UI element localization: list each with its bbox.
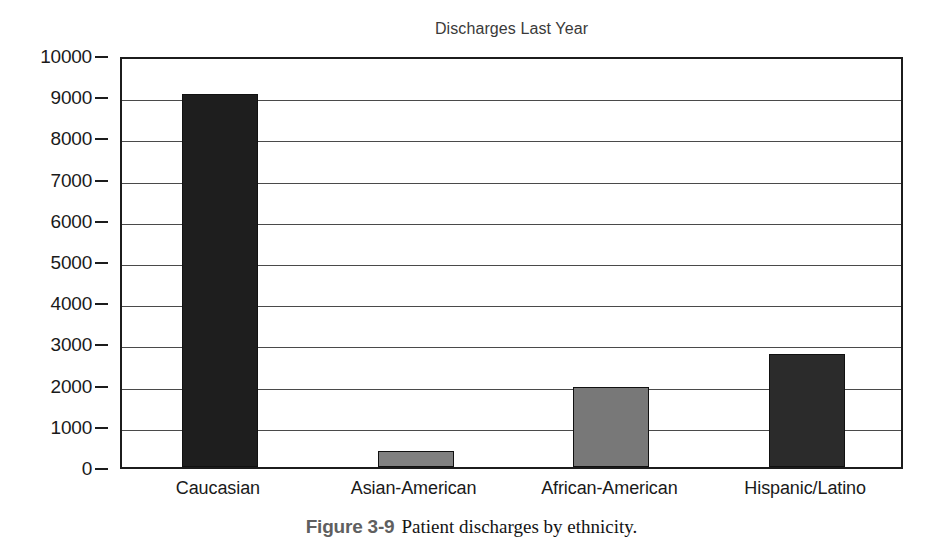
y-tick-mark — [95, 303, 108, 305]
y-tick-mark — [95, 344, 108, 346]
y-tick-mark — [95, 386, 108, 388]
y-tick-label: 2000 — [51, 376, 92, 398]
bar — [378, 451, 454, 467]
y-tick-mark — [95, 262, 108, 264]
y-tick-mark — [95, 180, 108, 182]
bar — [182, 94, 258, 467]
x-tick-label: Hispanic/Latino — [744, 478, 866, 499]
y-tick-mark — [95, 468, 108, 470]
x-tick-label: Caucasian — [176, 478, 260, 499]
y-tick-mark — [95, 221, 108, 223]
y-tick-mark — [95, 427, 108, 429]
y-tick-label: 10000 — [40, 46, 92, 68]
caption-number: Figure 3-9 — [306, 516, 395, 537]
bar — [573, 387, 649, 467]
y-tick-label: 6000 — [51, 211, 92, 233]
y-tick-label: 3000 — [51, 334, 92, 356]
y-tick-mark — [95, 138, 108, 140]
y-tick-label: 9000 — [51, 87, 92, 109]
y-tick-label: 8000 — [51, 128, 92, 150]
x-axis: CaucasianAsian-AmericanAfrican-AmericanH… — [120, 478, 903, 508]
y-tick-label: 4000 — [51, 293, 92, 315]
y-axis: 0100020003000400050006000700080009000100… — [0, 57, 108, 469]
chart-title: Discharges Last Year — [120, 20, 903, 38]
x-tick-label: Asian-American — [351, 478, 477, 499]
y-tick-label: 0 — [82, 458, 92, 480]
x-tick-label: African-American — [541, 478, 677, 499]
caption-text: Patient discharges by ethnicity. — [401, 516, 637, 537]
figure-container: Discharges Last Year 0100020003000400050… — [0, 0, 943, 548]
plot-area — [120, 57, 903, 469]
y-tick-label: 7000 — [51, 170, 92, 192]
y-tick-label: 5000 — [51, 252, 92, 274]
figure-caption: Figure 3-9Patient discharges by ethnicit… — [0, 516, 943, 538]
bar — [769, 354, 845, 467]
y-tick-label: 1000 — [51, 417, 92, 439]
y-tick-mark — [95, 97, 108, 99]
y-tick-mark — [95, 56, 108, 58]
